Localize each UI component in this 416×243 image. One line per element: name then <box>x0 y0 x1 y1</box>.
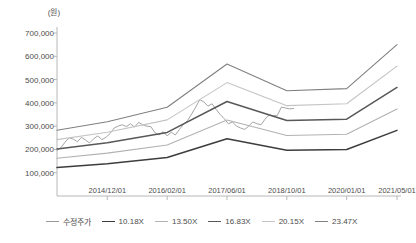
x-tick-label: 2020/01/01 <box>328 186 366 195</box>
legend-item-10-18X[interactable]: 10.18X <box>102 217 144 226</box>
legend-item-20-15X[interactable]: 20.15X <box>262 217 304 226</box>
legend-line-swatch <box>208 221 221 222</box>
series-line-20-15X <box>57 66 397 140</box>
series-line-23-47X <box>57 45 397 131</box>
legend-item-23-47X[interactable]: 23.47X <box>315 217 357 226</box>
legend-item-수정주가[interactable]: 수정주가 <box>46 216 91 227</box>
legend-label: 16.83X <box>225 217 250 226</box>
legend-label: 수정주가 <box>63 216 91 227</box>
legend-label: 13.50X <box>172 217 197 226</box>
series-line-수정주가 <box>57 100 294 151</box>
legend-line-swatch <box>46 221 59 222</box>
axis-tick-marks <box>54 33 397 200</box>
axis-lines <box>57 27 401 196</box>
x-tick-label: 2018/10/01 <box>268 186 306 195</box>
x-tick-label: 2016/02/01 <box>148 186 186 195</box>
legend-label: 23.47X <box>332 217 357 226</box>
series-line-13-50X <box>57 109 397 158</box>
series-line-16-83X <box>57 87 397 148</box>
legend-label: 20.15X <box>279 217 304 226</box>
x-tick-label: 2021/05/01 <box>378 186 416 195</box>
x-tick-label: 2017/06/01 <box>208 186 246 195</box>
legend-line-swatch <box>315 221 328 222</box>
series-lines <box>57 45 397 168</box>
legend-line-swatch <box>155 221 168 222</box>
legend-item-16-83X[interactable]: 16.83X <box>208 217 250 226</box>
legend-line-swatch <box>262 221 275 222</box>
x-tick-label: 2014/12/01 <box>89 186 127 195</box>
legend-item-13-50X[interactable]: 13.50X <box>155 217 197 226</box>
chart-legend: 수정주가10.18X13.50X16.83X20.15X23.47X <box>0 210 403 232</box>
legend-line-swatch <box>102 221 115 222</box>
legend-label: 10.18X <box>119 217 144 226</box>
